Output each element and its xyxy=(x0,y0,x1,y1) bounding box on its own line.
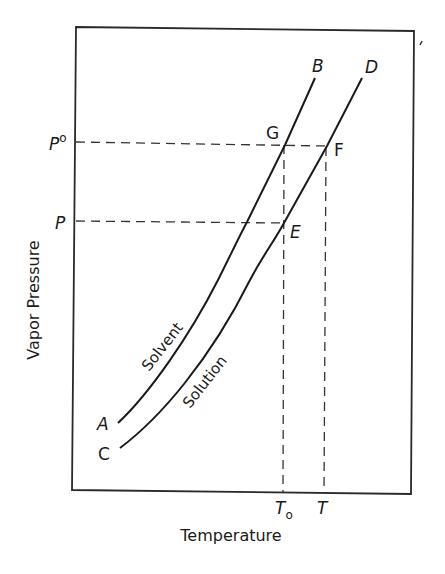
point-a-label: A xyxy=(96,414,109,434)
p-tick-label: P xyxy=(55,213,66,233)
point-c-label: C xyxy=(98,444,110,464)
t-guide-line xyxy=(324,147,326,493)
t-tick-label: T xyxy=(317,498,329,518)
plot-frame xyxy=(72,27,414,494)
point-f-label: F xyxy=(334,140,344,160)
t0-tick-label: To xyxy=(275,498,293,522)
stray-mark xyxy=(420,41,422,45)
point-d-label: D xyxy=(365,57,378,77)
t0-guide-line xyxy=(283,145,284,492)
p0-guide-line xyxy=(76,142,327,146)
point-b-label: B xyxy=(312,56,324,76)
point-e-label: E xyxy=(290,222,301,242)
vapor-pressure-diagram: Vapor Pressure Temperature Po P To T B D… xyxy=(0,0,445,574)
p-guide-line xyxy=(76,221,284,223)
solution-curve xyxy=(120,78,362,448)
y-axis-label: Vapor Pressure xyxy=(24,240,43,359)
x-axis-label: Temperature xyxy=(179,526,281,545)
p0-tick-label: Po xyxy=(49,131,67,154)
point-g-label: G xyxy=(266,123,279,143)
